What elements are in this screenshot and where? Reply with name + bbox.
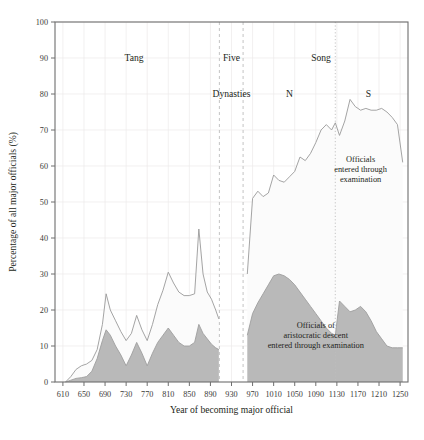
x-tick-label: 850 [183, 390, 195, 399]
x-tick-label: 730 [120, 390, 132, 399]
x-tick-label: 1010 [265, 390, 281, 399]
y-tick-label: 40 [40, 234, 48, 243]
y-tick-label: 80 [40, 90, 48, 99]
annotation-line: Officials of [297, 321, 335, 330]
x-tick-label: 1210 [371, 390, 387, 399]
era-label-s: S [366, 88, 371, 99]
x-tick-label: 650 [78, 390, 90, 399]
y-tick-label: 0 [44, 378, 48, 387]
x-tick-label: 930 [225, 390, 237, 399]
annotation-line: Officials [346, 155, 375, 164]
x-tick-label: 890 [204, 390, 216, 399]
y-tick-label: 50 [40, 198, 48, 207]
era-label-five: Five [223, 52, 240, 63]
y-tick-label: 70 [40, 126, 48, 135]
chart-figure: 0102030405060708090100610650690730770810… [0, 0, 424, 440]
x-tick-label: 1130 [329, 390, 345, 399]
x-tick-label: 810 [162, 390, 174, 399]
x-axis-title: Year of becoming major official [170, 404, 293, 415]
y-tick-label: 90 [40, 54, 48, 63]
chart-canvas: 0102030405060708090100610650690730770810… [0, 0, 424, 440]
x-tick-label: 610 [57, 390, 69, 399]
era-label-n: N [286, 88, 293, 99]
x-tick-label: 1090 [308, 390, 324, 399]
era-label-tang: Tang [125, 52, 144, 63]
era-label-song: Song [311, 52, 331, 63]
x-tick-label: 770 [141, 390, 153, 399]
y-tick-label: 20 [40, 306, 48, 315]
y-axis-title: Percentage of all major officials (%) [7, 132, 19, 272]
y-tick-label: 100 [36, 18, 48, 27]
y-tick-label: 30 [40, 270, 48, 279]
y-tick-label: 60 [40, 162, 48, 171]
x-tick-label: 690 [99, 390, 111, 399]
annotation-line: examination [340, 175, 382, 184]
x-tick-label: 1170 [350, 390, 366, 399]
annotation-line: aristocratic descent [284, 331, 349, 340]
x-tick-label: 1250 [392, 390, 408, 399]
annotation-line: entered through examination [268, 341, 365, 350]
era-label-dynasties: Dynasties [213, 88, 251, 99]
y-tick-label: 10 [40, 342, 48, 351]
x-tick-label: 1050 [287, 390, 303, 399]
annotation-line: entered through [334, 165, 388, 174]
x-tick-label: 970 [246, 390, 258, 399]
